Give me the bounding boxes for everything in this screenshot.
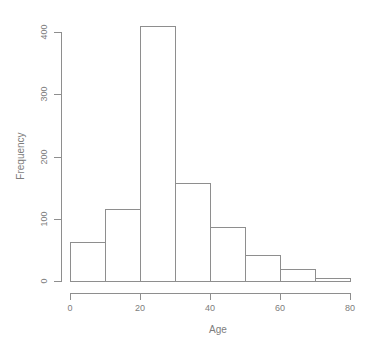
x-axis-title: Age <box>209 325 227 335</box>
x-tick-label: 40 <box>205 304 215 313</box>
y-tick-label: 100 <box>40 211 49 226</box>
x-tick-label: 80 <box>345 304 355 313</box>
y-tick-label: 0 <box>40 278 49 283</box>
x-tick-label: 0 <box>67 304 72 313</box>
y-axis-title: Frequency <box>16 132 26 179</box>
y-axis-tick <box>54 32 61 33</box>
histogram-bar <box>105 209 141 282</box>
y-tick-label: 300 <box>40 87 49 102</box>
histogram-figure: 0100200300400020406080 Age Frequency <box>0 0 372 348</box>
y-axis-tick <box>54 219 61 220</box>
histogram-bar <box>140 26 176 282</box>
y-tick-label: 200 <box>40 149 49 164</box>
x-axis-tick <box>350 293 351 300</box>
x-axis-tick <box>70 293 71 300</box>
plot-area: 0100200300400020406080 <box>0 0 372 348</box>
y-axis-tick <box>54 157 61 158</box>
histogram-bar <box>315 278 351 282</box>
histogram-bar <box>70 242 106 282</box>
x-axis-tick <box>280 293 281 300</box>
x-tick-label: 20 <box>135 304 145 313</box>
histogram-bar <box>280 269 316 282</box>
y-axis-line <box>61 32 62 282</box>
y-tick-label: 400 <box>40 24 49 39</box>
x-axis-tick <box>210 293 211 300</box>
histogram-bar <box>245 255 281 282</box>
y-axis-tick <box>54 281 61 282</box>
histogram-bar <box>175 183 211 282</box>
histogram-bar <box>210 227 246 282</box>
x-axis-tick <box>140 293 141 300</box>
y-axis-tick <box>54 94 61 95</box>
x-tick-label: 60 <box>275 304 285 313</box>
